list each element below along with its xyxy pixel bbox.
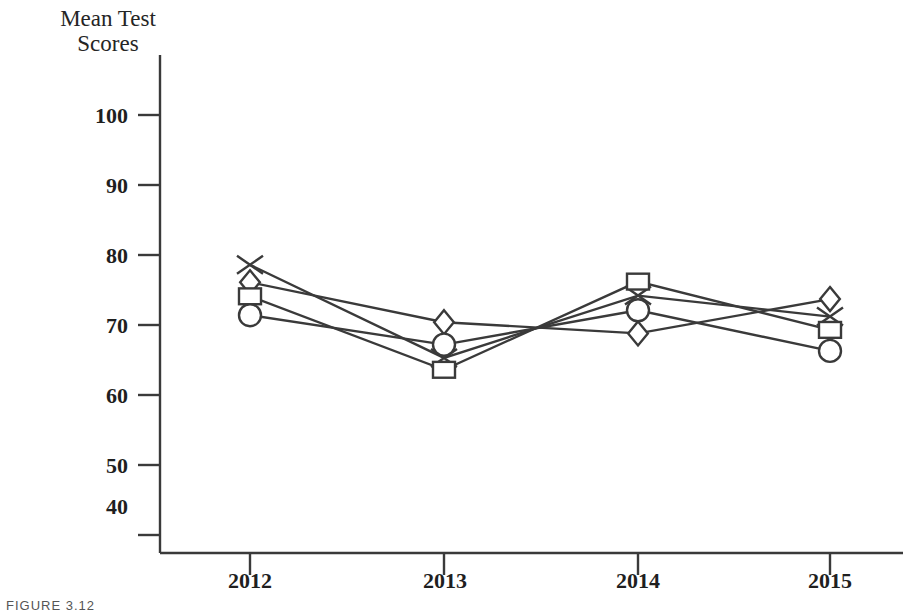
x-axis-tick-marks: [250, 553, 830, 575]
data-point-marker: [434, 310, 454, 334]
data-point-marker: [819, 340, 841, 362]
series-markers: [237, 256, 843, 378]
data-point-marker: [627, 274, 649, 290]
y-axis-tick-marks: [138, 115, 160, 535]
plot-area: [0, 0, 903, 612]
data-point-marker: [627, 299, 649, 321]
data-point-marker: [239, 288, 261, 304]
series-lines: [250, 265, 830, 370]
data-point-marker: [433, 334, 455, 356]
data-point-marker: [819, 322, 841, 338]
figure-caption: FIGURE 3.12: [6, 598, 95, 612]
data-point-marker: [820, 287, 840, 311]
data-point-marker: [239, 304, 261, 326]
data-point-marker: [628, 321, 648, 345]
data-point-marker: [433, 362, 455, 378]
line-chart-figure: Mean Test Scores 100 90 80 70 60 50 40 2…: [0, 0, 903, 612]
